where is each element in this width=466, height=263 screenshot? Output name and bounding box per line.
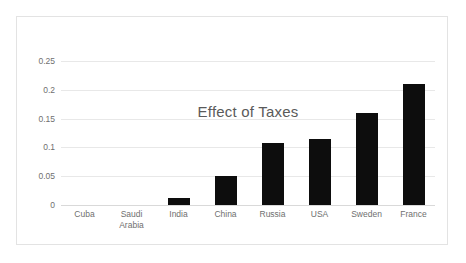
y-axis-tick-label: 0.2 bbox=[17, 86, 55, 95]
bar[interactable] bbox=[309, 139, 331, 205]
chart-title: Effect of Taxes bbox=[17, 103, 447, 120]
bar[interactable] bbox=[262, 143, 284, 205]
x-axis-category-label: France bbox=[390, 209, 437, 220]
chart-figure: 00.050.10.150.20.25 CubaSaudi ArabiaIndi… bbox=[16, 16, 448, 245]
x-axis-category-label: China bbox=[202, 209, 249, 220]
x-axis-category-label: Cuba bbox=[61, 209, 108, 220]
x-axis-category-label: USA bbox=[296, 209, 343, 220]
y-axis-tick-label: 0 bbox=[17, 201, 55, 210]
y-axis-tick-label: 0.1 bbox=[17, 143, 55, 152]
bar[interactable] bbox=[121, 204, 143, 205]
x-axis-category-label: Russia bbox=[249, 209, 296, 220]
x-axis-category-label: Saudi Arabia bbox=[108, 209, 155, 231]
y-axis-tick-label: 0.25 bbox=[17, 57, 55, 66]
plot-area: 00.050.10.150.20.25 CubaSaudi ArabiaIndi… bbox=[17, 17, 447, 244]
y-axis-tick-label: 0.05 bbox=[17, 172, 55, 181]
bar[interactable] bbox=[215, 176, 237, 205]
x-axis-category-label: Sweden bbox=[343, 209, 390, 220]
x-axis-category-label: India bbox=[155, 209, 202, 220]
bar[interactable] bbox=[356, 113, 378, 205]
bar[interactable] bbox=[168, 198, 190, 205]
